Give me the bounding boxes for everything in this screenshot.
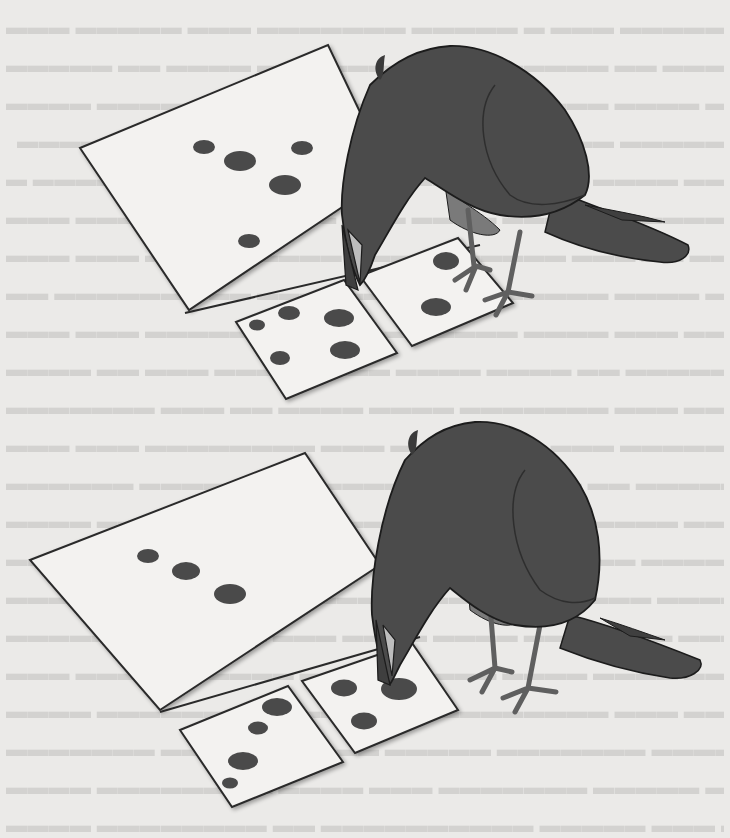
top-choice-card-left	[236, 280, 397, 399]
bottom-scene	[30, 422, 701, 807]
top-scene	[80, 45, 689, 399]
crow-numerosity-illustration	[0, 0, 730, 838]
top-choice-card-right	[360, 238, 513, 346]
figure-canvas: ▬▬▬ ▬▬▬▬▬ ▬▬▬ ▬▬▬▬▬▬▬ ▬▬▬▬▬ ▬ ▬▬▬ ▬▬▬▬▬▬…	[0, 0, 730, 838]
